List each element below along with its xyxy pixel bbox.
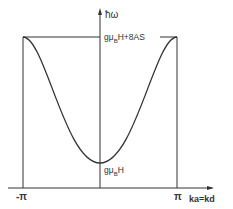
max-energy-label: gμBH+8AS [104, 33, 145, 44]
y-axis-arrow-icon [98, 8, 102, 15]
min-energy-label: gμBH [104, 166, 124, 177]
x-axis-arrow-icon [207, 186, 214, 190]
neg-pi-label: -π [16, 192, 27, 202]
x-axis-label: ka=kd [189, 195, 215, 204]
y-axis-label: ħω [105, 10, 118, 20]
dispersion-diagram [0, 0, 233, 209]
pi-label: π [174, 192, 182, 202]
